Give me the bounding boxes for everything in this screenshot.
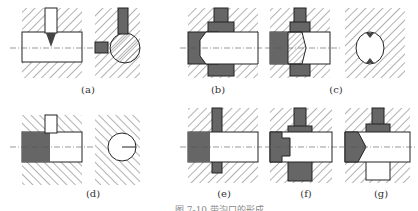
label-e: (e) (217, 188, 231, 199)
panel-a-side (10, 8, 95, 78)
panel-a-section (95, 8, 140, 78)
panel-f (265, 108, 340, 183)
panel-b (180, 8, 262, 78)
panel-g (340, 108, 415, 183)
mechanical-diagram (0, 0, 418, 211)
label-f: (f) (300, 188, 312, 199)
figure-caption: 图 7-10 带沟口的形成 (175, 203, 264, 211)
label-g: (g) (374, 188, 388, 199)
label-d: (d) (86, 188, 100, 199)
label-c: (c) (329, 84, 342, 95)
panel-d-side (10, 115, 95, 185)
panel-e (180, 108, 262, 183)
label-a: (a) (81, 84, 95, 95)
label-b: (b) (211, 84, 225, 95)
panel-d-section (95, 115, 140, 185)
panel-c-section (345, 8, 405, 78)
panel-c-side (265, 8, 340, 78)
